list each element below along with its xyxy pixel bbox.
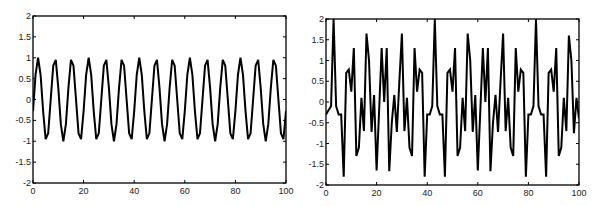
x-tick-label: 20 <box>372 188 382 198</box>
data-series-line <box>326 19 579 177</box>
right-chart-svg: 21.510.50-0.5-1-1.5-2020406080100 <box>0 0 599 206</box>
x-tick-label: 0 <box>323 188 328 198</box>
right-chart: 21.510.50-0.5-1-1.5-2020406080100 <box>0 0 599 206</box>
y-tick-label: 0.5 <box>311 76 324 86</box>
y-tick-label: 1.5 <box>311 35 324 45</box>
x-tick-label: 60 <box>473 188 483 198</box>
y-tick-label: -1.5 <box>308 159 324 169</box>
y-tick-label: 2 <box>319 14 324 24</box>
y-tick-label: 1 <box>319 56 324 66</box>
y-tick-label: 0 <box>319 97 324 107</box>
x-tick-label: 40 <box>422 188 432 198</box>
x-tick-label: 100 <box>571 188 586 198</box>
x-tick-label: 80 <box>523 188 533 198</box>
y-tick-label: -0.5 <box>308 118 324 128</box>
y-tick-label: -1 <box>316 139 324 149</box>
